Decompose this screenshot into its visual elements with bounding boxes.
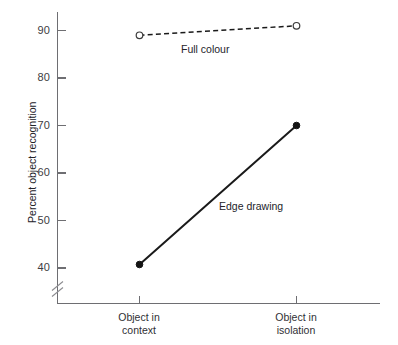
series-full-colour-point-0 [136, 32, 143, 39]
x-category-label-object-in-isolation: Object in isolation [236, 311, 356, 338]
chart-figure: 90 80 70 60 50 40 Percent object recogni… [0, 0, 398, 345]
x-category-label-line1: Object in [236, 311, 356, 324]
series-edge-drawing-point-0 [136, 261, 143, 268]
series-edge-drawing-line [140, 126, 297, 265]
series-edge-drawing-point-1 [293, 122, 300, 129]
series-full-colour-point-1 [293, 23, 300, 30]
y-axis-title: Percent object recognition [27, 72, 38, 252]
x-category-label-object-in-context: Object in context [79, 311, 199, 338]
y-axis-ticks [58, 31, 66, 269]
series-label-full-colour: Full colour [181, 44, 229, 55]
series-edge-drawing [136, 122, 300, 268]
y-tick-label-40: 40 [20, 262, 50, 273]
x-category-label-line1: Object in [79, 311, 199, 324]
series-label-edge-drawing: Edge drawing [219, 201, 283, 212]
x-category-label-line2: isolation [236, 324, 356, 337]
x-category-label-line2: context [79, 324, 199, 337]
x-axis-ticks [140, 296, 297, 304]
y-tick-label-90: 90 [20, 25, 50, 36]
series-full-colour-line [140, 26, 297, 36]
series-full-colour [136, 23, 300, 39]
